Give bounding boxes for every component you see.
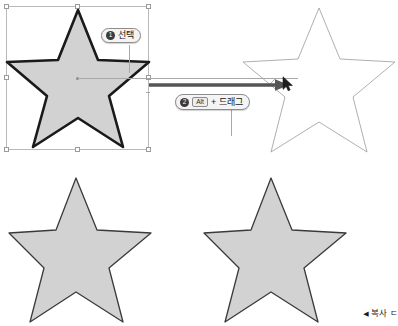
callout-drag-leader-line: [231, 110, 232, 136]
caption-marker-icon: ◀: [363, 310, 369, 317]
illustration-canvas: 1 선택 2 Alt + 드래그 ◀복사 ㄷ: [0, 0, 398, 326]
guide-end-tick: [269, 71, 275, 77]
guide-line-tick: [146, 92, 150, 93]
callout-select-leader-line: [129, 45, 130, 73]
alt-keycap: Alt: [192, 97, 208, 107]
callout-step-select-label: 선택: [118, 31, 134, 40]
caption-text: 복사 ㄷ: [371, 308, 398, 318]
plus-sign: +: [211, 98, 216, 107]
callout-step-drag[interactable]: 2 Alt + 드래그: [175, 94, 250, 110]
caption-copy: ◀복사 ㄷ: [363, 306, 398, 318]
result-star-original-shape: [9, 178, 151, 322]
callout-step-drag-label: 드래그: [219, 98, 243, 107]
result-star-copy[interactable]: [203, 176, 355, 324]
result-star-copy-shape: [204, 178, 346, 322]
callout-step-select-badge: 1: [106, 31, 115, 40]
callout-step-drag-badge: 2: [180, 98, 189, 107]
mouse-pointer-icon: [282, 76, 294, 92]
callout-step-select[interactable]: 1 선택: [101, 28, 141, 43]
drag-arrow-icon: [148, 78, 296, 92]
result-star-original[interactable]: [8, 176, 160, 324]
